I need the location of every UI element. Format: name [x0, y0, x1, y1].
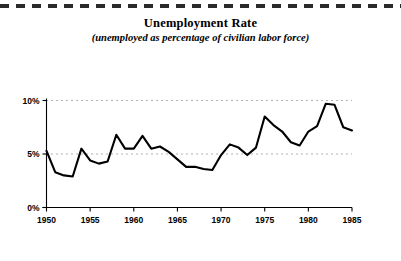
y-axis-ticks: [43, 101, 47, 208]
y-axis-tick-labels: 0%5%10%: [22, 96, 39, 213]
x-tick-label-1950: 1950: [37, 215, 56, 225]
gridlines: [47, 101, 353, 155]
y-tick-label-5: 5%: [27, 149, 40, 159]
data-series-group: [47, 104, 353, 177]
data-line-0: [47, 104, 353, 177]
x-tick-label-1960: 1960: [124, 215, 143, 225]
x-tick-label-1965: 1965: [168, 215, 187, 225]
x-axis-ticks: [47, 208, 353, 212]
plot-area: 19501955196019651970197519801985 0%5%10%: [0, 0, 401, 261]
x-axis-tick-labels: 19501955196019651970197519801985: [37, 215, 362, 225]
unemployment-rate-figure: Unemployment Rate (unemployed as percent…: [0, 0, 401, 261]
x-tick-label-1955: 1955: [81, 215, 100, 225]
axis-lines: [43, 99, 353, 208]
y-tick-label-10: 10%: [22, 96, 39, 106]
x-tick-label-1980: 1980: [299, 215, 318, 225]
x-tick-label-1970: 1970: [212, 215, 231, 225]
y-tick-label-0: 0%: [27, 203, 40, 213]
x-tick-label-1985: 1985: [343, 215, 362, 225]
x-tick-label-1975: 1975: [255, 215, 274, 225]
unemployment-line-chart: 19501955196019651970197519801985 0%5%10%: [0, 0, 401, 261]
